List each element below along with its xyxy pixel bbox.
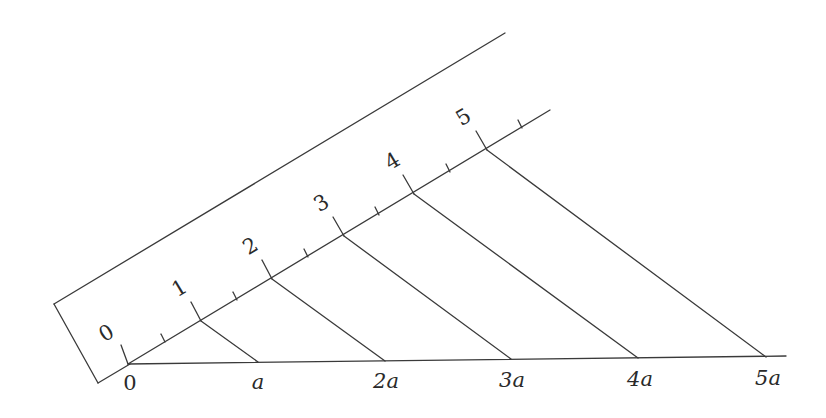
- parallel-line-5: [487, 150, 766, 357]
- ruler-top-edge: [54, 33, 505, 304]
- baseline-labels: 0 a 2a 3a 4a 5a: [123, 366, 781, 395]
- major-tick-1: [191, 302, 201, 321]
- minor-tick: [518, 120, 522, 128]
- major-tick-0: [121, 345, 128, 364]
- scale-label-1: 1: [167, 274, 191, 301]
- minor-tick: [304, 249, 308, 257]
- parallel-line-2: [272, 279, 385, 361]
- baseline-label-3a: 3a: [499, 368, 525, 392]
- minor-tick: [161, 334, 165, 342]
- major-ticks: [121, 131, 487, 364]
- scale-label-2: 2: [238, 232, 262, 259]
- ruler-division-diagram: 0 1 2 3 4 5 0 a 2a 3a 4a 5a: [0, 0, 826, 418]
- scale-labels: 0 1 2 3 4 5: [94, 103, 475, 346]
- minor-tick: [233, 292, 237, 300]
- major-tick-3: [333, 217, 344, 236]
- baseline-label-5a: 5a: [755, 366, 781, 390]
- parallel-line-1: [201, 321, 258, 362]
- parallel-line-4: [414, 194, 638, 358]
- major-tick-5: [476, 131, 487, 150]
- scale-label-0: 0: [94, 319, 118, 346]
- scale-label-4: 4: [380, 147, 404, 174]
- baseline: [128, 356, 786, 364]
- parallel-lines: [201, 150, 766, 362]
- parallel-line-3: [344, 236, 511, 359]
- ruler-left-edge: [54, 304, 98, 383]
- baseline-label-0: 0: [123, 371, 136, 395]
- baseline-label-a: a: [252, 370, 265, 394]
- scale-label-5: 5: [451, 103, 475, 130]
- ruler: [54, 33, 550, 383]
- ruler-scale-edge: [128, 110, 550, 364]
- scale-label-3: 3: [309, 189, 333, 216]
- major-tick-2: [262, 260, 272, 279]
- baseline-label-2a: 2a: [372, 369, 399, 393]
- major-tick-4: [403, 175, 414, 194]
- baseline-label-4a: 4a: [626, 367, 653, 391]
